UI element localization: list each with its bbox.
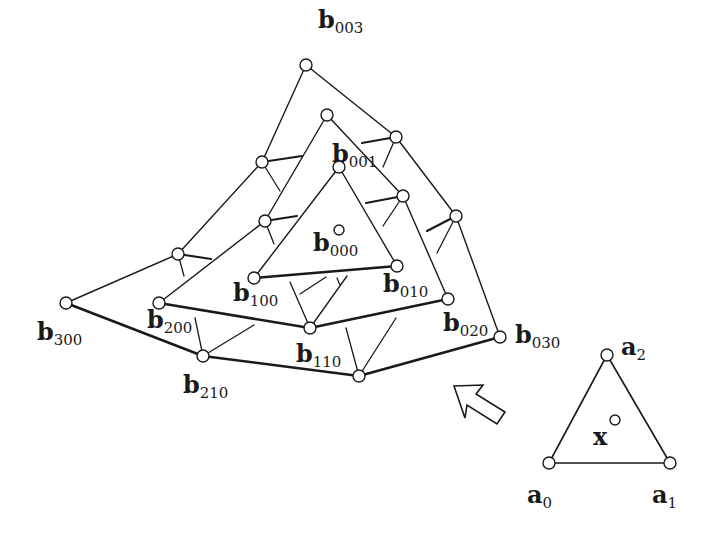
pyramid-thick-edges <box>66 266 500 376</box>
control-point-b030 <box>494 331 506 343</box>
control-point-b020 <box>442 293 454 305</box>
tick-mark <box>203 325 254 356</box>
label-b020: b020 <box>443 308 488 340</box>
control-point-b003 <box>300 59 312 71</box>
label-b030: b030 <box>515 320 560 352</box>
domain-edge-a1-a2 <box>607 355 670 463</box>
edge-b021-b030 <box>456 216 500 337</box>
control-point-b011 <box>397 190 409 202</box>
edge-b100-b010 <box>254 266 397 278</box>
control-point-b201 <box>172 248 184 260</box>
domain-point-x <box>610 415 620 425</box>
point-labels: b003b300b210b030b200b110b020b001b100b010… <box>37 5 677 512</box>
label-a1: a1 <box>652 480 677 512</box>
domain-vertex-a0 <box>543 457 555 469</box>
control-point-b120 <box>353 370 365 382</box>
control-point-b110 <box>304 322 316 334</box>
edge-b102-b003 <box>262 65 306 162</box>
control-point-b002 <box>321 109 333 121</box>
label-b003: b003 <box>318 5 363 37</box>
bezier-pyramid-diagram: b003b300b210b030b200b110b020b001b100b010… <box>0 0 711 537</box>
domain-vertex-a2 <box>601 349 613 361</box>
domain-vertex-a1 <box>664 457 676 469</box>
tick-mark <box>346 328 359 376</box>
edge-b101-b002 <box>265 115 327 221</box>
direction-arrow-icon <box>454 385 505 424</box>
control-points <box>60 59 676 469</box>
label-b300: b300 <box>37 317 82 349</box>
label-a0: a0 <box>527 480 552 512</box>
control-point-b300 <box>60 297 72 309</box>
control-point-b000 <box>334 225 344 235</box>
control-point-b012 <box>390 131 402 143</box>
tick-mark <box>337 278 340 285</box>
label-a2: a2 <box>621 332 646 364</box>
label-b110: b110 <box>296 339 341 371</box>
label-b210: b210 <box>183 370 228 402</box>
label-x: x <box>593 422 608 451</box>
control-point-b101 <box>259 215 271 227</box>
edge-b201-b102 <box>178 162 262 254</box>
domain-triangle-edges <box>549 355 670 463</box>
pyramid-thin-edges <box>66 65 500 337</box>
tick-mark <box>300 277 326 294</box>
edge-b300-b201 <box>66 254 178 303</box>
control-point-b102 <box>256 156 268 168</box>
label-b200: b200 <box>147 305 192 337</box>
label-b010: b010 <box>383 269 428 301</box>
control-point-b021 <box>450 210 462 222</box>
edge-b110-b020 <box>310 299 448 328</box>
edge-b012-b021 <box>396 137 456 216</box>
control-point-b100 <box>248 272 260 284</box>
edge-b003-b012 <box>306 65 396 137</box>
control-point-b210 <box>197 350 209 362</box>
